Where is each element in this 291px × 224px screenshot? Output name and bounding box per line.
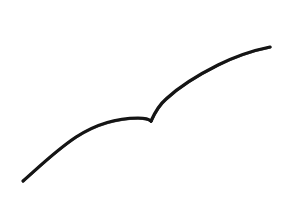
sketch-canvas [0,0,291,224]
canvas-background [0,0,291,224]
drawing-surface [0,0,291,224]
